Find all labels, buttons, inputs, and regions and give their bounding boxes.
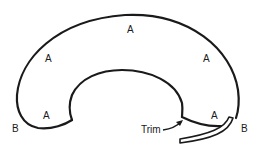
label-b-right: B bbox=[241, 124, 248, 134]
label-a-upper-left: A bbox=[45, 54, 52, 64]
label-b-left: B bbox=[12, 124, 19, 134]
label-a-top: A bbox=[127, 25, 134, 35]
label-trim: Trim bbox=[141, 125, 161, 135]
label-a-lower-right: A bbox=[211, 111, 218, 121]
label-a-lower-left: A bbox=[43, 111, 50, 121]
label-a-upper-right: A bbox=[203, 54, 210, 64]
inner-curve bbox=[70, 70, 222, 126]
c-shape-diagram: A A A A A B B Trim bbox=[0, 0, 261, 159]
